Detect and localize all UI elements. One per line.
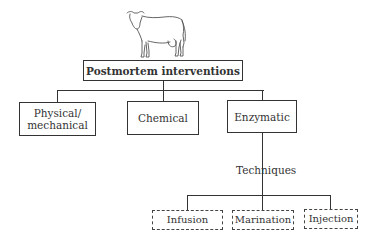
physical-label-line2: mechanical (27, 119, 88, 131)
physical-mechanical-node: Physical/ mechanical (19, 102, 96, 136)
connector-chemical (163, 90, 164, 101)
connector-enzymatic (262, 90, 263, 100)
cow-icon (124, 7, 188, 61)
marination-node: Marination (232, 210, 294, 230)
postmortem-interventions-node: Postmortem interventions (83, 60, 243, 81)
enzymatic-node: Enzymatic (227, 100, 297, 133)
connector-physical (57, 90, 58, 102)
connector-infusion (187, 195, 188, 210)
connector-injection (330, 195, 331, 209)
chemical-label: Chemical (138, 112, 188, 124)
techniques-label: Techniques (236, 164, 296, 176)
injection-label: Injection (309, 213, 354, 225)
infusion-label: Infusion (167, 214, 208, 226)
connector-root-down (163, 81, 164, 90)
enzymatic-label: Enzymatic (234, 111, 290, 123)
connector-category-bar (57, 90, 264, 91)
marination-label: Marination (235, 214, 291, 226)
chemical-node: Chemical (127, 101, 199, 135)
infusion-node: Infusion (152, 210, 223, 230)
connector-techniques-bar (187, 195, 331, 196)
root-label: Postmortem interventions (86, 65, 240, 77)
connector-marination (262, 195, 263, 210)
physical-label-line1: Physical/ (34, 107, 82, 119)
injection-node: Injection (304, 209, 358, 229)
